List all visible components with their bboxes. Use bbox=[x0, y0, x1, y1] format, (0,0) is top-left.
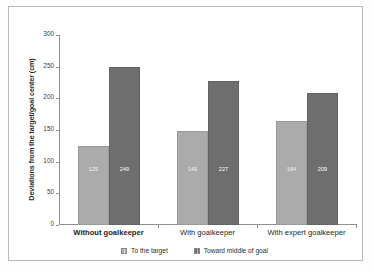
y-axis-title: Deviations from the target/goal center (… bbox=[24, 37, 38, 222]
y-tick-300: 300 bbox=[37, 35, 59, 36]
y-tick-label-200: 200 bbox=[43, 93, 54, 100]
y-tick-label-50: 50 bbox=[47, 188, 54, 195]
bar-value-label: 149 bbox=[178, 166, 207, 172]
y-tick-label-250: 250 bbox=[43, 62, 54, 69]
bar-toward-middle-of-goal-3[interactable]: 209 bbox=[307, 93, 338, 225]
bar-value-label: 164 bbox=[277, 166, 306, 172]
bar-value-label: 249 bbox=[110, 166, 139, 172]
y-tick-label-150: 150 bbox=[43, 125, 54, 132]
y-tick-200: 200 bbox=[37, 98, 59, 99]
bar-to-the-target-3[interactable]: 164 bbox=[276, 121, 307, 225]
y-tick-250: 250 bbox=[37, 67, 59, 68]
chart-figure: Deviations from the target/goal center (… bbox=[0, 0, 373, 273]
light-gray-swatch-icon bbox=[121, 248, 127, 254]
bar-value-label: 227 bbox=[209, 166, 238, 172]
y-axis-title-text: Deviations from the target/goal center (… bbox=[27, 58, 36, 200]
bar-toward-middle-of-goal-2[interactable]: 227 bbox=[208, 81, 239, 225]
chart-frame: Deviations from the target/goal center (… bbox=[8, 6, 363, 261]
bar-group-without-goalkeeper: 125 249 bbox=[59, 35, 158, 225]
y-tick-label-300: 300 bbox=[43, 30, 54, 37]
bar-group-with-goalkeeper: 149 227 bbox=[158, 35, 257, 225]
legend-label-to-the-target: To the target bbox=[131, 247, 168, 254]
x-category-label-3: With expert goalkeeper bbox=[257, 228, 356, 237]
x-category-label-2: With goalkeeper bbox=[158, 228, 257, 237]
x-axis-category-labels: Without goalkeeper With goalkeeper With … bbox=[59, 228, 357, 242]
bar-to-the-target-1[interactable]: 125 bbox=[78, 146, 109, 225]
y-tick-label-0: 0 bbox=[50, 220, 54, 227]
plot-area: 300 250 200 150 100 50 bbox=[59, 35, 357, 225]
bar-toward-middle-of-goal-1[interactable]: 249 bbox=[109, 67, 140, 225]
x-category-label-1: Without goalkeeper bbox=[59, 228, 158, 237]
bar-value-label: 125 bbox=[79, 166, 108, 172]
y-tick-mark bbox=[56, 225, 59, 226]
legend-item-toward-middle-of-goal[interactable]: Toward middle of goal bbox=[194, 247, 268, 254]
chart-legend: To the target Toward middle of goal bbox=[17, 247, 372, 254]
bar-to-the-target-2[interactable]: 149 bbox=[177, 131, 208, 225]
dark-gray-swatch-icon bbox=[194, 248, 200, 254]
y-tick-label-100: 100 bbox=[43, 157, 54, 164]
y-tick-50: 50 bbox=[37, 193, 59, 194]
bar-group-with-expert-goalkeeper: 164 209 bbox=[257, 35, 356, 225]
bar-value-label: 209 bbox=[308, 166, 337, 172]
y-tick-150: 150 bbox=[37, 130, 59, 131]
legend-item-to-the-target[interactable]: To the target bbox=[121, 247, 168, 254]
legend-label-toward-middle-of-goal: Toward middle of goal bbox=[204, 247, 268, 254]
y-tick-100: 100 bbox=[37, 162, 59, 163]
y-tick-0: 0 bbox=[37, 225, 59, 226]
